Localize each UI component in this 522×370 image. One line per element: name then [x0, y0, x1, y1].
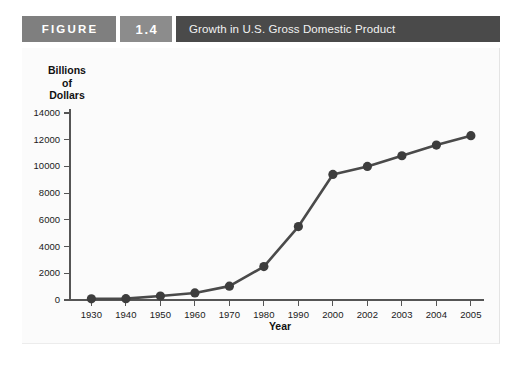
data-point-marker	[259, 262, 268, 271]
y-axis-tick-label: 12000	[16, 134, 60, 145]
y-axis-tick-label: 10000	[16, 160, 60, 171]
data-point-marker	[225, 282, 234, 291]
data-point-marker	[87, 294, 96, 303]
figure-number-box: 1.4	[120, 16, 172, 42]
data-point-marker	[156, 291, 165, 300]
data-point-marker	[397, 151, 406, 160]
figure-header: FIGURE 1.4 Growth in U.S. Gross Domestic…	[22, 16, 500, 42]
axes-group	[64, 109, 484, 306]
figure-number-text: 1.4	[134, 22, 159, 37]
data-point-marker	[190, 288, 199, 297]
data-point-marker	[328, 170, 337, 179]
y-axis-tick-label: 0	[16, 294, 60, 305]
data-point-marker	[363, 162, 372, 171]
data-point-marker	[121, 294, 130, 303]
figure-label-text: FIGURE	[40, 23, 99, 35]
y-axis-tick-label: 4000	[16, 241, 60, 252]
x-axis-title: Year	[22, 320, 500, 332]
figure-title-box: Growth in U.S. Gross Domestic Product	[176, 16, 500, 42]
series-line	[91, 136, 471, 299]
page-margin	[0, 344, 522, 370]
data-point-marker	[432, 140, 441, 149]
y-axis-tick-label: 2000	[16, 267, 60, 278]
y-axis-tick-label: 6000	[16, 214, 60, 225]
y-axis-tick-label: 8000	[16, 187, 60, 198]
x-axis-tick-label: 2005	[449, 309, 493, 320]
x-axis-title-text: Year	[231, 320, 291, 332]
data-point-marker	[466, 131, 475, 140]
figure-label-box: FIGURE	[22, 16, 116, 42]
data-series-gdp	[87, 131, 476, 303]
figure-title-text: Growth in U.S. Gross Domestic Product	[176, 23, 395, 35]
y-axis-tick-label: 14000	[16, 107, 60, 118]
data-point-marker	[294, 222, 303, 231]
plot-area	[22, 48, 500, 344]
chart-panel: Billions of Dollars 02000400060008000100…	[22, 48, 500, 344]
figure-container: FIGURE 1.4 Growth in U.S. Gross Domestic…	[0, 0, 522, 370]
